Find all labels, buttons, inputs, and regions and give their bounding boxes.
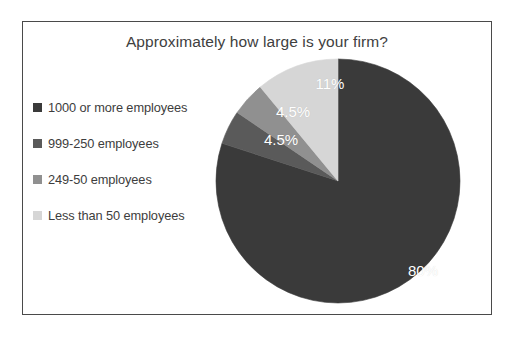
- chart-legend: 1000 or more employees 999-250 employees…: [33, 89, 225, 233]
- legend-swatch-icon: [33, 103, 42, 112]
- pie-slice[interactable]: [216, 59, 460, 303]
- legend-item-249-50-employees[interactable]: 249-50 employees: [33, 161, 225, 197]
- pie-slice-value-label: 4.5%: [264, 131, 298, 148]
- legend-item-label: 1000 or more employees: [48, 100, 187, 115]
- legend-swatch-icon: [33, 211, 42, 220]
- pie-slice[interactable]: [237, 87, 338, 181]
- pie-slice[interactable]: [260, 59, 338, 181]
- legend-swatch-icon: [33, 139, 42, 148]
- legend-item-less-than-50-employees[interactable]: Less than 50 employees: [33, 197, 225, 233]
- chart-frame: Approximately how large is your firm? 10…: [22, 21, 492, 315]
- pie-slice[interactable]: [222, 112, 338, 181]
- legend-item-999-250-employees[interactable]: 999-250 employees: [33, 125, 225, 161]
- legend-item-1000-or-more-employees[interactable]: 1000 or more employees: [33, 89, 225, 125]
- pie-slice-value-label: 4.5%: [276, 103, 310, 120]
- legend-item-label: 249-50 employees: [48, 172, 152, 187]
- pie-slice-value-label: 80%: [408, 262, 438, 279]
- legend-item-label: Less than 50 employees: [48, 208, 185, 223]
- chart-title: Approximately how large is your firm?: [23, 33, 491, 51]
- legend-swatch-icon: [33, 175, 42, 184]
- legend-item-label: 999-250 employees: [48, 136, 159, 151]
- clipped-top-text: [108, 0, 408, 3]
- pie-slice-value-label: 11%: [316, 75, 345, 92]
